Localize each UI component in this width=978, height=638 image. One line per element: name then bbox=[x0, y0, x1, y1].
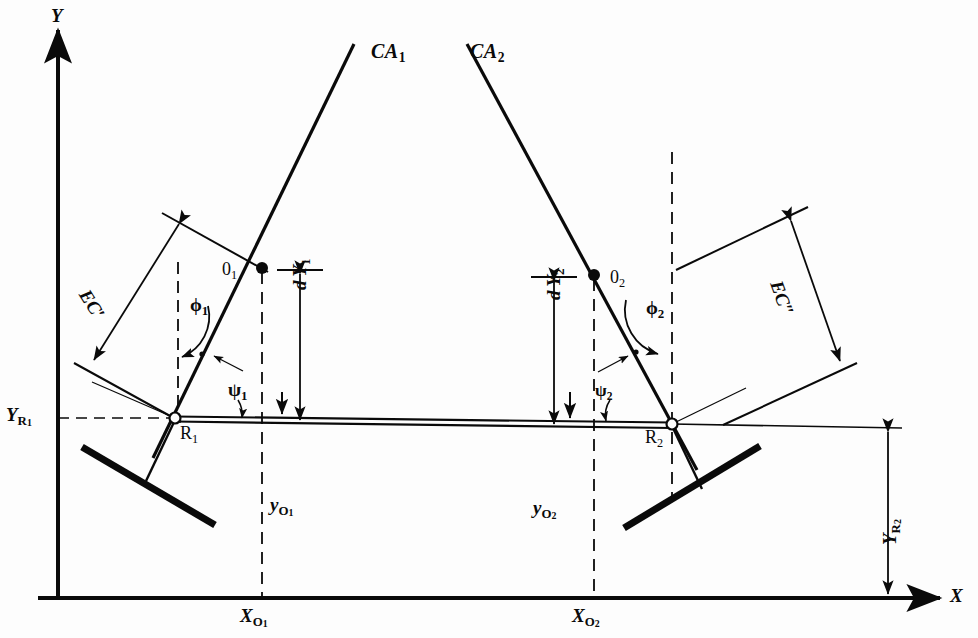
point-o2-marker bbox=[588, 269, 600, 281]
control-arm-1-label: CA1 bbox=[371, 41, 405, 65]
r2-horizontal-reference bbox=[672, 424, 902, 428]
control-arm-2-label: CA2 bbox=[470, 41, 504, 65]
psi2-label: ψ2 bbox=[595, 382, 612, 402]
control-arm-2 bbox=[467, 44, 697, 470]
axle-beam bbox=[175, 417, 672, 429]
contact-link-right bbox=[672, 426, 702, 489]
y-axis-label: Y bbox=[51, 6, 63, 25]
dy1-label: d Y1 bbox=[290, 259, 313, 290]
ec2-bars bbox=[676, 207, 857, 425]
point-o1-label: 01 bbox=[222, 260, 237, 281]
axis-group bbox=[38, 30, 940, 598]
yr2-label: YR2 bbox=[880, 519, 903, 545]
psi2-angle-indicator bbox=[598, 356, 628, 372]
ec2-dimension-line bbox=[791, 221, 840, 361]
phi2-label: ϕ2 bbox=[646, 298, 664, 321]
diagram-canvas bbox=[0, 0, 978, 638]
yr1-label: YR1 bbox=[6, 405, 32, 428]
point-r1-label: R1 bbox=[180, 424, 198, 445]
yo1-label: yO1 bbox=[270, 495, 293, 518]
contact-bar-left bbox=[82, 447, 215, 525]
point-r2-label: R2 bbox=[645, 428, 663, 449]
phi1-label: ϕ1 bbox=[190, 295, 208, 318]
psi2-beam-arc bbox=[605, 400, 610, 421]
yo2-label: yO2 bbox=[533, 498, 556, 521]
point-r1-marker bbox=[170, 413, 181, 424]
psi1-label: ψ1 bbox=[228, 380, 248, 403]
contact-link-left bbox=[146, 420, 175, 481]
psi1-angle-indicator bbox=[214, 356, 243, 371]
point-o2-label: 02 bbox=[610, 268, 625, 289]
ec1-dimension-line bbox=[94, 224, 179, 360]
control-arm-1 bbox=[153, 44, 354, 458]
xo1-label: XO1 bbox=[240, 606, 268, 629]
dy2-label: d Y2 bbox=[544, 269, 567, 300]
r1-reference-ray bbox=[92, 382, 175, 418]
point-o1-marker bbox=[256, 262, 268, 274]
dy1-dimension bbox=[277, 270, 323, 420]
x-axis-label: X bbox=[950, 586, 963, 605]
xo2-label: XO2 bbox=[572, 606, 600, 629]
kinematic-diagram: Y X CA1 CA2 01 02 R1 R2 EC′ EC″ ϕ1 ϕ2 ψ1… bbox=[0, 0, 978, 638]
point-r2-marker bbox=[667, 419, 678, 430]
